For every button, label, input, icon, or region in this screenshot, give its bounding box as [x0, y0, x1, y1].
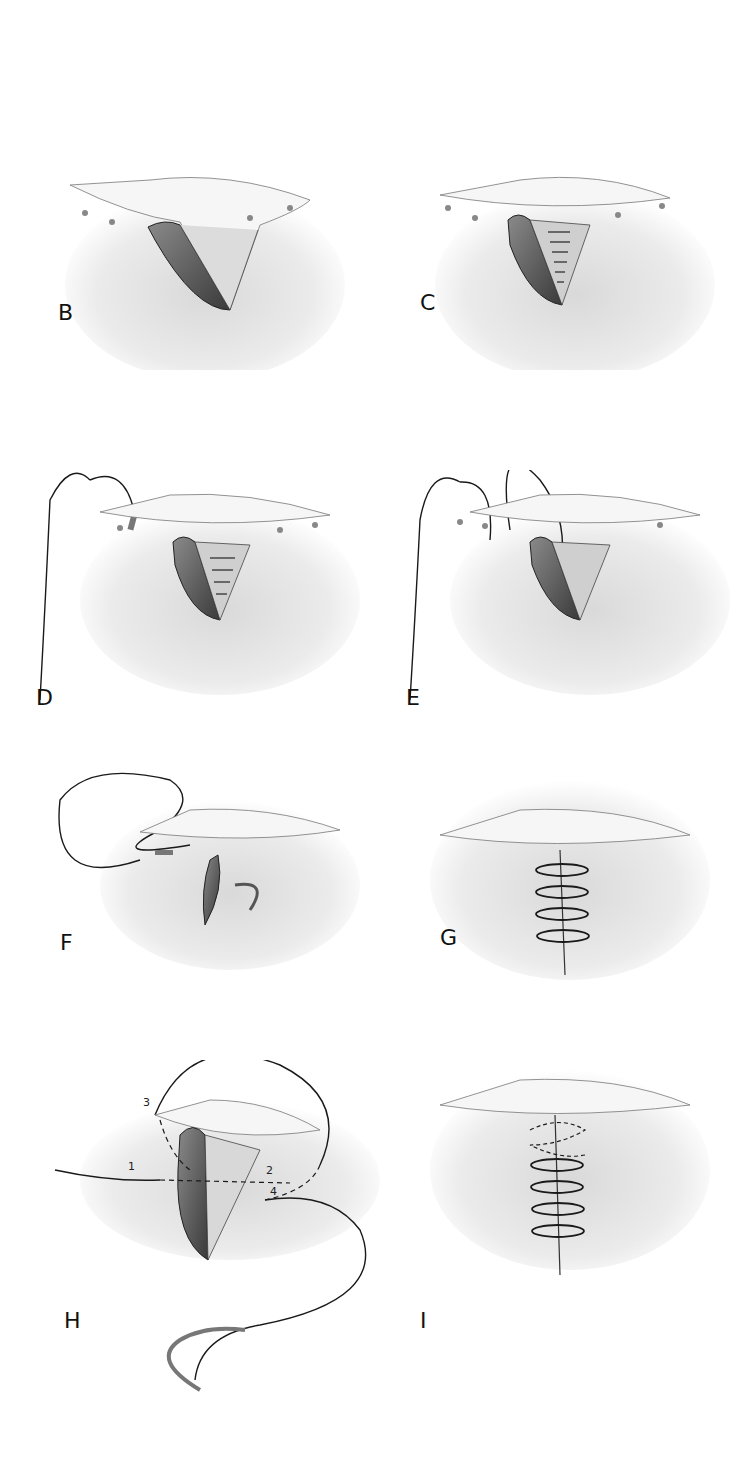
panel-b: B [30, 170, 330, 470]
panel-label-e: E [406, 685, 420, 710]
panel-e: E [400, 470, 700, 770]
panel-label-h: H [64, 1308, 81, 1333]
wound-illustration-h: 1 2 3 4 [30, 1060, 430, 1460]
panel-i: I [400, 1060, 700, 1360]
wound-illustration-g [400, 760, 730, 1000]
wound-illustration-b [30, 170, 360, 370]
panel-c: C [400, 170, 700, 470]
panel-h: 1 2 3 4 H [30, 1060, 330, 1360]
panel-label-i: I [420, 1308, 427, 1333]
wound-illustration-e [400, 470, 730, 710]
panel-label-f: F [60, 930, 73, 955]
panel-label-g: G [440, 925, 457, 950]
step-2: 2 [266, 1164, 273, 1177]
wound-illustration-d [30, 470, 360, 710]
wound-illustration-c [400, 170, 730, 370]
panel-g: G [400, 760, 700, 1060]
wound-illustration-i [400, 1060, 730, 1290]
step-4: 4 [270, 1185, 277, 1198]
panel-label-b: B [58, 300, 73, 325]
panel-label-c: C [420, 290, 435, 315]
wound-illustration-f [30, 760, 360, 970]
panel-label-d: D [36, 685, 53, 710]
step-1: 1 [128, 1160, 135, 1173]
panel-f: F [30, 760, 330, 1060]
step-3: 3 [143, 1096, 150, 1109]
panel-d: D [30, 470, 330, 770]
